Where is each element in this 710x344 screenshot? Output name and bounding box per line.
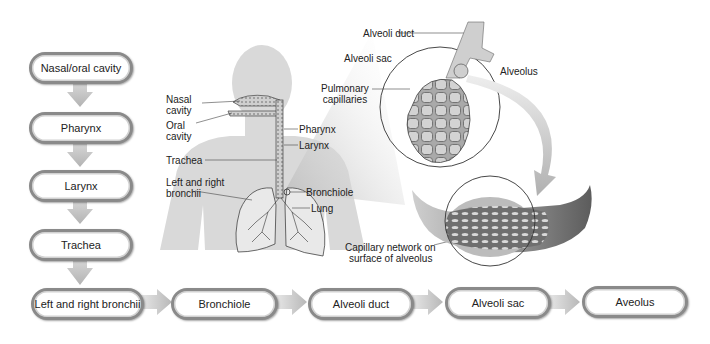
flow-step-label: Pharynx xyxy=(61,122,101,134)
label-line: cavity xyxy=(166,131,192,142)
flow-step-alveoli-duct: Alveoli duct xyxy=(308,288,414,320)
label-alveoli-sac: Alveoli sac xyxy=(344,53,392,64)
label-line: Pulmonary xyxy=(321,83,369,94)
flow-step-label: Alveoli sac xyxy=(472,297,525,309)
label-larynx: Larynx xyxy=(299,140,329,151)
flow-step-label: Trachea xyxy=(61,239,101,251)
alveoli-sac-illustration xyxy=(380,22,500,167)
flow-step-nasal-oral-cavity: Nasal/oral cavity xyxy=(29,52,133,84)
label-nasal-cavity: Nasal cavity xyxy=(166,94,192,116)
flow-step-label: Left and right bronchii xyxy=(35,298,141,310)
label-lung: Lung xyxy=(311,203,333,214)
alveolus-sphere xyxy=(454,64,468,78)
label-line: Nasal xyxy=(166,94,192,105)
flow-step-label: Aveolus xyxy=(616,296,655,308)
flow-step-trachea: Trachea xyxy=(29,229,133,261)
label-line: bronchii xyxy=(166,188,224,199)
flow-step-alveoli-sac: Alveoli sac xyxy=(445,287,551,319)
label-bronchii: Left and right bronchii xyxy=(166,177,224,199)
flow-step-larynx: Larynx xyxy=(29,170,133,202)
label-line: capillaries xyxy=(321,94,369,105)
label-alveoli-duct: Alveoli duct xyxy=(363,28,414,39)
flow-step-alveolus: Aveolus xyxy=(582,286,688,318)
capillary-network-illustration xyxy=(412,176,592,266)
flow-step-label: Bronchiole xyxy=(199,298,251,310)
flow-step-left-right-bronchii: Left and right bronchii xyxy=(31,288,144,320)
label-pharynx: Pharynx xyxy=(299,124,336,135)
label-pulmonary-capillaries: Pulmonary capillaries xyxy=(321,83,369,105)
label-bronchiole: Bronchiole xyxy=(306,187,353,198)
respiratory-diagram: Nasal/oral cavity Pharynx Larynx Trachea… xyxy=(0,0,710,344)
flow-step-bronchiole: Bronchiole xyxy=(171,288,278,320)
label-trachea: Trachea xyxy=(166,155,202,166)
flow-step-label: Alveoli duct xyxy=(333,298,389,310)
flow-step-pharynx: Pharynx xyxy=(29,112,133,144)
label-alveolus: Alveolus xyxy=(500,66,538,77)
flow-step-label: Nasal/oral cavity xyxy=(41,62,122,74)
label-line: surface of alveolus xyxy=(345,253,436,264)
label-capillary-network: Capillary network on surface of alveolus xyxy=(345,242,436,264)
label-line: Left and right xyxy=(166,177,224,188)
flow-step-label: Larynx xyxy=(64,180,97,192)
label-line: Oral xyxy=(166,120,192,131)
label-line: cavity xyxy=(166,105,192,116)
label-line: Capillary network on xyxy=(345,242,436,253)
curved-arrow xyxy=(466,75,556,196)
label-oral-cavity: Oral cavity xyxy=(166,120,192,142)
